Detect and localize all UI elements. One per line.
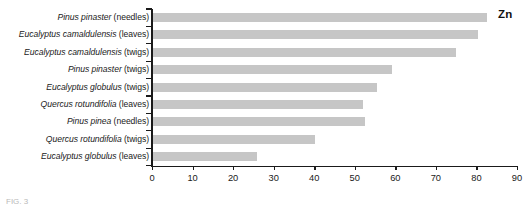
bar-row: Eucalyptus globulus (twigs) [0, 79, 529, 96]
species-name: Pinus pinea [67, 116, 114, 126]
chart-plot-area: Pinus pinaster (needles)Eucalyptus camal… [0, 0, 529, 205]
bar [152, 65, 392, 74]
series-annotation-zn: Zn [498, 8, 513, 21]
category-label: Quercus rotundifolia (twigs) [3, 131, 149, 148]
y-axis-tick [146, 95, 152, 96]
y-axis-tick [146, 78, 152, 79]
plant-part: (twigs) [124, 47, 149, 57]
x-axis-tick-label: 80 [461, 172, 491, 184]
x-axis-tick [517, 166, 518, 170]
category-label: Eucalyptus camaldulensis (twigs) [3, 44, 149, 61]
category-label: Eucalyptus camaldulensis (leaves) [3, 26, 149, 43]
species-name: Pinus pinaster [58, 12, 114, 22]
x-axis-tick [476, 166, 477, 170]
x-axis-tick-label: 50 [340, 172, 370, 184]
category-label: Quercus rotundifolia (leaves) [3, 96, 149, 113]
plant-part: (twigs) [124, 64, 149, 74]
x-axis-tick-label: 70 [421, 172, 451, 184]
bar-row: Eucalyptus globulus (leaves) [0, 148, 529, 165]
x-axis-tick-label: 10 [178, 172, 208, 184]
bar-row: Pinus pinaster (twigs) [0, 61, 529, 78]
bar [152, 100, 363, 109]
plant-part: (needles) [114, 12, 149, 22]
x-axis-tick [355, 166, 356, 170]
species-name: Quercus rotundifolia [46, 134, 124, 144]
y-axis-tick [146, 8, 152, 9]
x-axis-tick-label: 20 [218, 172, 248, 184]
y-axis-tick [146, 148, 152, 149]
species-name: Eucalyptus camaldulensis [24, 47, 124, 57]
x-axis-tick [436, 166, 437, 170]
bar-row: Eucalyptus camaldulensis (twigs) [0, 44, 529, 61]
bar [152, 48, 456, 57]
bar-row: Pinus pinea (needles) [0, 113, 529, 130]
x-axis-tick-label: 40 [299, 172, 329, 184]
species-name: Quercus rotundifolia [41, 99, 119, 109]
bar-row: Eucalyptus camaldulensis (leaves) [0, 26, 529, 43]
category-label: Pinus pinea (needles) [3, 113, 149, 130]
y-axis-tick [146, 43, 152, 44]
species-name: Eucalyptus globulus [41, 151, 119, 161]
bar [152, 117, 365, 126]
bar [152, 83, 377, 92]
category-label: Eucalyptus globulus (twigs) [3, 79, 149, 96]
species-name: Eucalyptus globulus [46, 82, 124, 92]
bar [152, 152, 257, 161]
x-axis-tick-label: 60 [380, 172, 410, 184]
caption-fragment: FIG. 3 [6, 197, 156, 205]
y-axis-tick [146, 61, 152, 62]
bar [152, 13, 487, 22]
category-label: Pinus pinaster (twigs) [3, 61, 149, 78]
figure-zinc-bar-chart: Pinus pinaster (needles)Eucalyptus camal… [0, 0, 529, 205]
bar [152, 135, 315, 144]
x-axis-tick-label: 0 [137, 172, 167, 184]
x-axis-tick [193, 166, 194, 170]
plant-part: (leaves) [119, 99, 149, 109]
bar-row: Quercus rotundifolia (leaves) [0, 96, 529, 113]
x-axis-tick [233, 166, 234, 170]
x-axis-tick [152, 166, 153, 170]
plant-part: (needles) [114, 116, 149, 126]
y-axis-line [151, 9, 153, 166]
x-axis-tick [274, 166, 275, 170]
bar [152, 30, 478, 39]
y-axis-tick [146, 130, 152, 131]
bar-row: Pinus pinaster (needles) [0, 9, 529, 26]
y-axis-tick [146, 26, 152, 27]
x-axis-tick [314, 166, 315, 170]
plant-part: (twigs) [124, 134, 149, 144]
plant-part: (leaves) [119, 151, 149, 161]
x-axis-tick [395, 166, 396, 170]
x-axis-tick-label: 90 [502, 172, 529, 184]
x-axis-line [151, 166, 517, 167]
plant-part: (leaves) [119, 29, 149, 39]
species-name: Pinus pinaster [68, 64, 124, 74]
x-axis-tick-label: 30 [259, 172, 289, 184]
species-name: Eucalyptus camaldulensis [19, 29, 119, 39]
plant-part: (twigs) [124, 82, 149, 92]
bar-row: Quercus rotundifolia (twigs) [0, 131, 529, 148]
category-label: Eucalyptus globulus (leaves) [3, 148, 149, 165]
y-axis-tick [146, 113, 152, 114]
category-label: Pinus pinaster (needles) [3, 9, 149, 26]
